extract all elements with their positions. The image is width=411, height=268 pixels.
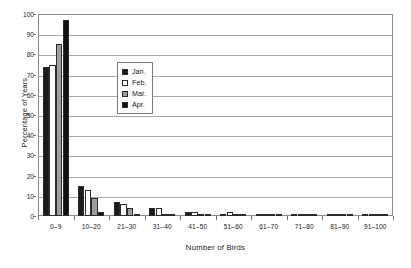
legend-item: Apr.	[122, 99, 146, 110]
y-tick-label: 60	[2, 91, 34, 98]
y-tick-label: 80	[2, 51, 34, 58]
y-tick-label: 30	[2, 152, 34, 159]
y-axis-tick-labels: 0102030405060708090100	[0, 14, 34, 216]
legend-label: Mar.	[132, 89, 146, 98]
y-tick-label: 10	[2, 192, 34, 199]
x-tick-mark	[180, 216, 181, 220]
gridline	[39, 116, 392, 117]
y-tick-mark	[33, 176, 36, 177]
gridline	[39, 96, 392, 97]
x-tick-mark	[251, 216, 252, 220]
y-tick-mark	[33, 196, 36, 197]
y-tick-label: 70	[2, 71, 34, 78]
y-tick-mark	[33, 95, 36, 96]
y-tick-label: 50	[2, 112, 34, 119]
legend-swatch-icon	[122, 80, 128, 86]
y-tick-label: 0	[2, 213, 34, 220]
y-tick-mark	[33, 135, 36, 136]
x-tick-mark	[38, 216, 39, 220]
x-tick-mark	[358, 216, 359, 220]
y-tick-mark	[33, 216, 36, 217]
y-tick-mark	[33, 155, 36, 156]
plot-area	[38, 14, 393, 216]
gridline	[39, 35, 392, 36]
legend-item: Mar.	[122, 88, 146, 99]
y-tick-mark	[33, 75, 36, 76]
x-tick-mark	[287, 216, 288, 220]
legend-item: Jan.	[122, 66, 146, 77]
x-tick-mark	[322, 216, 323, 220]
legend-swatch-icon	[122, 91, 128, 97]
gridline	[39, 136, 392, 137]
gridline	[39, 156, 392, 157]
x-axis-title: Number of Birds	[38, 243, 393, 252]
legend-swatch-icon	[122, 69, 128, 75]
gridline	[39, 197, 392, 198]
legend-swatch-icon	[122, 102, 128, 108]
legend-item: Feb.	[122, 77, 146, 88]
legend-label: Apr.	[132, 100, 145, 109]
x-tick-mark	[74, 216, 75, 220]
x-tick-mark	[216, 216, 217, 220]
x-tick-mark	[145, 216, 146, 220]
legend-label: Feb.	[132, 78, 146, 87]
y-tick-label: 100	[2, 11, 34, 18]
y-tick-mark	[33, 54, 36, 55]
legend-label: Jan.	[132, 67, 146, 76]
y-tick-label: 40	[2, 132, 34, 139]
gridline	[39, 55, 392, 56]
y-tick-label: 20	[2, 172, 34, 179]
y-tick-mark	[33, 115, 36, 116]
x-tick-label: 91–100	[350, 223, 400, 230]
x-tick-mark	[393, 216, 394, 220]
bar-chart: Percentage of Years 01020304050607080901…	[0, 0, 411, 268]
chart-legend: Jan.Feb.Mar.Apr.	[117, 62, 153, 114]
gridline	[39, 76, 392, 77]
y-tick-label: 90	[2, 31, 34, 38]
y-tick-mark	[33, 34, 36, 35]
x-tick-mark	[109, 216, 110, 220]
y-tick-mark	[33, 14, 36, 15]
gridline	[39, 177, 392, 178]
